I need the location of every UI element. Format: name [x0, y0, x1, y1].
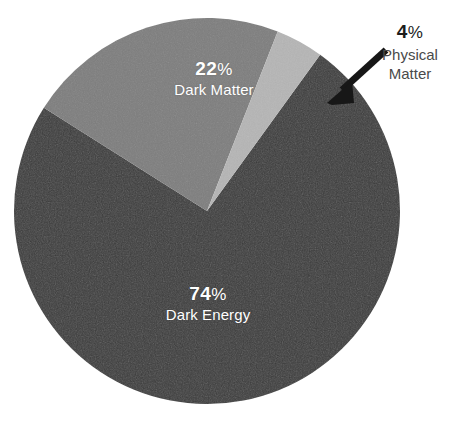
- pie-chart-canvas: [0, 0, 449, 421]
- pie-chart: 22% Dark Matter 74% Dark Energy 4% Physi…: [0, 0, 449, 421]
